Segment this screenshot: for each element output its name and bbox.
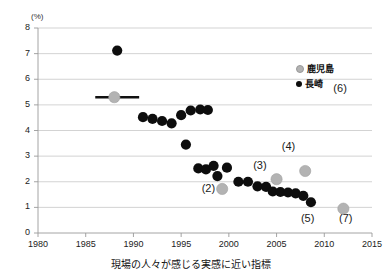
annotation-4: (4) xyxy=(282,140,295,152)
data-point xyxy=(271,174,282,185)
chart-legend: 鹿児島 長崎 xyxy=(296,61,362,95)
x-tick-label-1980: 1980 xyxy=(21,239,55,249)
series-kagoshima-points xyxy=(109,92,349,215)
data-point xyxy=(176,110,186,120)
data-point xyxy=(147,114,157,124)
data-point xyxy=(186,105,196,115)
gridlines xyxy=(38,28,372,207)
x-tick-label-1985: 1985 xyxy=(69,239,103,249)
legend-label-kagoshima: 鹿児島 xyxy=(307,62,334,75)
data-point xyxy=(208,161,218,171)
legend-marker-black-circle-icon xyxy=(296,81,302,87)
data-point xyxy=(112,45,122,55)
y-axis-unit-label: (%) xyxy=(31,12,43,21)
figure-caption: 現場の人々が感じる実感に近い指標 xyxy=(0,256,382,271)
data-point xyxy=(212,171,222,181)
x-tick-label-2010: 2010 xyxy=(307,239,341,249)
annotation-3: (3) xyxy=(253,159,266,171)
data-point xyxy=(167,118,177,128)
data-point xyxy=(243,177,253,187)
data-point xyxy=(203,105,213,115)
x-tick-label-2015: 2015 xyxy=(355,239,387,249)
annotation-2: (2) xyxy=(202,182,215,194)
y-tick-marks xyxy=(34,28,38,233)
annotation-7: (7) xyxy=(339,212,352,224)
data-point xyxy=(222,163,232,173)
data-point xyxy=(157,116,167,126)
y-tick-label-7: 7 xyxy=(8,48,30,58)
data-point xyxy=(300,165,311,176)
annotation-5: (5) xyxy=(301,212,314,224)
x-tick-label-2000: 2000 xyxy=(212,239,246,249)
y-tick-label-2: 2 xyxy=(8,176,30,186)
x-tick-marks xyxy=(38,233,372,237)
y-tick-label-4: 4 xyxy=(8,125,30,135)
y-tick-label-8: 8 xyxy=(8,22,30,32)
x-tick-label-1995: 1995 xyxy=(164,239,198,249)
x-tick-label-1990: 1990 xyxy=(116,239,150,249)
data-point xyxy=(181,139,191,149)
legend-item-nagasaki: 長崎 xyxy=(296,76,323,91)
y-tick-label-1: 1 xyxy=(8,201,30,211)
legend-label-nagasaki: 長崎 xyxy=(305,77,323,90)
data-point xyxy=(233,177,243,187)
data-point xyxy=(217,183,228,194)
y-tick-label-5: 5 xyxy=(8,99,30,109)
y-tick-label-6: 6 xyxy=(8,73,30,83)
legend-marker-gray-circle-icon xyxy=(296,65,304,73)
data-point xyxy=(109,92,120,103)
x-tick-label-2005: 2005 xyxy=(260,239,294,249)
y-tick-label-0: 0 xyxy=(8,227,30,237)
legend-item-kagoshima: 鹿児島 xyxy=(296,61,334,76)
data-point xyxy=(306,197,316,207)
data-point xyxy=(138,112,148,122)
y-tick-label-3: 3 xyxy=(8,150,30,160)
